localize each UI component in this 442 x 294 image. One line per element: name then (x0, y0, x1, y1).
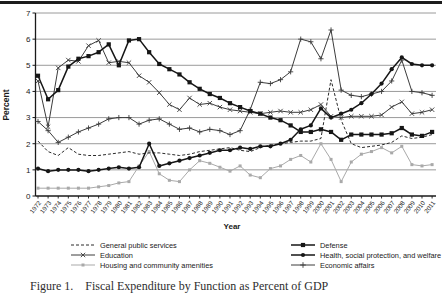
legend-item-education: Education (70, 250, 213, 260)
svg-text:4: 4 (26, 87, 31, 96)
legend-label: Economic affairs (320, 261, 375, 270)
chart-canvas: 0123456719721973197419751976197719781979… (0, 0, 442, 236)
svg-text:7: 7 (26, 9, 31, 18)
figure-caption: Figure 1. Fiscal Expenditure by Function… (30, 279, 440, 294)
health-legend-marker (290, 251, 316, 259)
legend-column-2: DefenseHealth, social protection, and we… (290, 240, 441, 270)
legend-label: Education (100, 251, 133, 260)
general-public-services-legend-marker (70, 241, 96, 249)
legend-label: Housing and community amenities (100, 261, 213, 270)
x-axis-label: Year (224, 222, 241, 231)
housing-legend-marker (70, 261, 96, 269)
legend-label: Health, social protection, and welfare (320, 251, 441, 260)
y-axis-ticks: 01234567 (26, 9, 35, 201)
svg-text:1: 1 (26, 166, 31, 175)
legend-item-health: Health, social protection, and welfare (290, 250, 441, 260)
svg-text:3: 3 (26, 113, 31, 122)
series-economic-affairs (35, 27, 434, 145)
series-defense (36, 37, 434, 142)
x-axis-ticks: 1972197319741975197619771978197919801981… (28, 196, 437, 215)
legend-column-1: General public servicesEducationHousing … (70, 240, 213, 270)
svg-text:5: 5 (26, 61, 31, 70)
y-axis-label: Percent (1, 89, 11, 120)
legend-item-housing: Housing and community amenities (70, 260, 213, 270)
svg-text:2: 2 (26, 140, 31, 149)
svg-text:0: 0 (26, 192, 31, 201)
education-legend-marker (70, 251, 96, 259)
svg-text:6: 6 (26, 35, 31, 44)
legend-item-defense: Defense (290, 240, 441, 250)
economic-affairs-legend-marker (290, 261, 316, 269)
defense-legend-marker (290, 241, 316, 249)
legend-item-general-public-services: General public services (70, 240, 213, 250)
gridlines (36, 13, 437, 170)
legend-item-economic-affairs: Economic affairs (290, 260, 441, 270)
svg-text:2011: 2011 (423, 199, 437, 214)
legend-label: General public services (100, 241, 177, 250)
series-education (36, 38, 434, 129)
legend-label: Defense (320, 241, 348, 250)
